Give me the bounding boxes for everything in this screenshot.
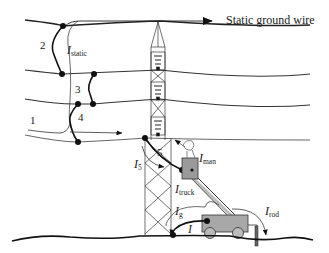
- current-symbol: I: [188, 222, 192, 236]
- current-static-label: Istatic: [67, 44, 87, 58]
- earth-surface: [12, 236, 313, 242]
- current-i5-label: I5: [134, 158, 142, 172]
- transmission-tower: [145, 22, 171, 236]
- jumper-5-label: 5: [157, 147, 163, 158]
- current-subscript: truck: [179, 188, 194, 197]
- current-subscript: man: [203, 157, 216, 166]
- jumper-4-label: 4: [78, 112, 84, 123]
- current-1-label: 1: [30, 115, 36, 126]
- current-subscript: 5: [138, 163, 142, 172]
- jumper-3-label: 3: [75, 84, 81, 95]
- current-rod-label: Irod: [265, 205, 279, 219]
- current-subscript: rod: [269, 210, 279, 219]
- current-g-label: Ig: [175, 205, 183, 219]
- current-subscript: g: [179, 210, 183, 219]
- current-man-label: Iman: [199, 152, 216, 166]
- jumper-2-label: 2: [40, 40, 46, 51]
- static-ground-wire-label: Static ground wire: [226, 14, 315, 26]
- phase-conductors: [25, 70, 310, 142]
- diagram-canvas: [0, 0, 329, 253]
- current-subscript: static: [71, 49, 87, 58]
- current-i-label: I: [188, 223, 192, 235]
- current-truck-label: Itruck: [175, 183, 194, 197]
